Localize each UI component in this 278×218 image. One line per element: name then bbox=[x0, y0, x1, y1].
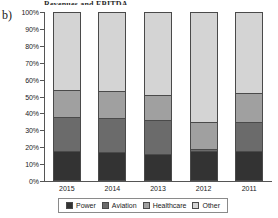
bar-segment-aviation[interactable] bbox=[53, 117, 81, 151]
y-axis-tick bbox=[40, 130, 45, 131]
y-axis-tick-label: 0% bbox=[29, 178, 39, 185]
bar-segment-aviation[interactable] bbox=[98, 118, 126, 152]
bar-segment-aviation[interactable] bbox=[144, 120, 172, 154]
y-axis-tick-label: 20% bbox=[25, 144, 39, 151]
panel-letter: b) bbox=[2, 8, 12, 23]
bar-segment-other[interactable] bbox=[235, 12, 263, 93]
x-axis-tick-label: 2015 bbox=[47, 185, 87, 192]
bar-segment-healthcare[interactable] bbox=[190, 122, 218, 149]
stacked-bar[interactable] bbox=[53, 12, 81, 181]
bar-segment-aviation[interactable] bbox=[190, 149, 218, 151]
legend-label: Aviation bbox=[112, 202, 137, 209]
y-axis-tick bbox=[40, 12, 45, 13]
x-axis-tick-label: 2014 bbox=[92, 185, 132, 192]
legend-item[interactable]: Power bbox=[66, 202, 96, 209]
x-axis-tick-label: 2013 bbox=[138, 185, 178, 192]
y-axis-tick-label: 100% bbox=[21, 9, 39, 16]
y-axis-tick-label: 30% bbox=[25, 127, 39, 134]
legend-item[interactable]: Aviation bbox=[102, 202, 137, 209]
legend-label: Other bbox=[202, 202, 220, 209]
y-axis-tick bbox=[40, 164, 45, 165]
bar-segment-power[interactable] bbox=[144, 154, 172, 181]
y-axis-tick bbox=[40, 181, 45, 182]
y-axis-tick bbox=[40, 147, 45, 148]
legend-item[interactable]: Healthcare bbox=[143, 202, 187, 209]
bar-segment-aviation[interactable] bbox=[235, 122, 263, 151]
y-axis-tick-label: 60% bbox=[25, 76, 39, 83]
bar-segment-healthcare[interactable] bbox=[53, 90, 81, 117]
bar-segment-other[interactable] bbox=[98, 12, 126, 91]
bar-segment-healthcare[interactable] bbox=[144, 95, 172, 120]
legend-swatch-icon bbox=[192, 202, 199, 209]
legend-swatch-icon bbox=[66, 202, 73, 209]
legend-swatch-icon bbox=[143, 202, 150, 209]
x-axis-line bbox=[44, 181, 272, 182]
bar-segment-healthcare[interactable] bbox=[98, 91, 126, 118]
bar-segment-other[interactable] bbox=[53, 12, 81, 90]
y-axis-tick bbox=[40, 63, 45, 64]
legend-label: Healthcare bbox=[153, 202, 187, 209]
x-axis-tick-label: 2012 bbox=[184, 185, 224, 192]
legend-item[interactable]: Other bbox=[192, 202, 220, 209]
y-axis-tick-label: 90% bbox=[25, 25, 39, 32]
stacked-bar[interactable] bbox=[98, 12, 126, 181]
bar-segment-other[interactable] bbox=[190, 12, 218, 122]
stacked-bar[interactable] bbox=[144, 12, 172, 181]
chart-plot-area: 0%10%20%30%40%50%60%70%80%90%100% 201520… bbox=[44, 12, 272, 182]
y-axis-tick-label: 10% bbox=[25, 161, 39, 168]
x-axis-tick-label: 2011 bbox=[229, 185, 269, 192]
y-axis-tick-label: 50% bbox=[25, 93, 39, 100]
bar-segment-power[interactable] bbox=[98, 152, 126, 181]
legend-swatch-icon bbox=[102, 202, 109, 209]
stacked-bar[interactable] bbox=[190, 12, 218, 181]
y-axis-tick bbox=[40, 29, 45, 30]
bar-segment-other[interactable] bbox=[144, 12, 172, 95]
y-axis-tick-label: 80% bbox=[25, 42, 39, 49]
chart-legend: PowerAviationHealthcareOther bbox=[58, 198, 228, 213]
bar-segment-power[interactable] bbox=[190, 151, 218, 181]
bar-segment-power[interactable] bbox=[235, 151, 263, 181]
y-axis-tick bbox=[40, 80, 45, 81]
y-axis-tick-label: 40% bbox=[25, 110, 39, 117]
legend-label: Power bbox=[76, 202, 96, 209]
y-axis-tick bbox=[40, 113, 45, 114]
stacked-bar[interactable] bbox=[235, 12, 263, 181]
y-axis-tick bbox=[40, 46, 45, 47]
figure-title: Revenues and EBITDA bbox=[44, 0, 214, 5]
y-axis-tick-label: 70% bbox=[25, 59, 39, 66]
bar-segment-power[interactable] bbox=[53, 151, 81, 181]
bar-segment-healthcare[interactable] bbox=[235, 93, 263, 122]
y-axis-tick bbox=[40, 97, 45, 98]
